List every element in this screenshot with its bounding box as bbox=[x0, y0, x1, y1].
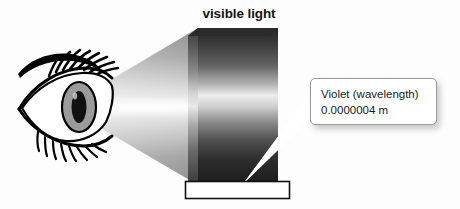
figure-canvas: visible light Violet (wavelength) 0.0000… bbox=[0, 0, 460, 209]
eye-illustration bbox=[18, 50, 118, 161]
violet-band bbox=[186, 182, 290, 199]
callout-line-1: Violet (wavelength) bbox=[321, 86, 436, 102]
page-title: visible light bbox=[180, 6, 298, 21]
callout-line-2: 0.0000004 m bbox=[321, 102, 436, 118]
callout-box: Violet (wavelength) 0.0000004 m bbox=[310, 78, 437, 125]
